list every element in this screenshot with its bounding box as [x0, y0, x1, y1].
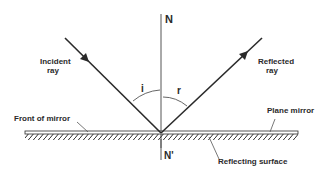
- reflected-ray-label-line2: ray: [266, 66, 279, 75]
- angle-i-label: i: [141, 83, 144, 94]
- plane-mirror-label: Plane mirror: [267, 106, 314, 115]
- front-of-mirror-label: Front of mirror: [14, 114, 70, 123]
- angle-r-label: r: [177, 85, 181, 96]
- normal-bottom-label: N': [164, 150, 174, 161]
- incident-ray-label-line2: ray: [47, 66, 60, 75]
- angle-i-arc: [133, 90, 160, 101]
- incident-ray-label-line1: Incident: [40, 57, 71, 66]
- reflection-diagram: N N' Incident ray Reflected ray i r Fron…: [0, 0, 332, 180]
- incident-ray: [65, 38, 161, 133]
- reflecting-surface-leader: [209, 137, 219, 159]
- reflecting-surface-label: Reflecting surface: [218, 157, 288, 166]
- reflected-ray-label-line1: Reflected: [258, 57, 294, 66]
- normal-top-label: N: [165, 13, 173, 25]
- angle-r-arc: [163, 97, 187, 106]
- plane-mirror-leader: [270, 119, 275, 132]
- front-of-mirror-leader: [77, 122, 88, 132]
- mirror-hatched-back: [25, 134, 298, 140]
